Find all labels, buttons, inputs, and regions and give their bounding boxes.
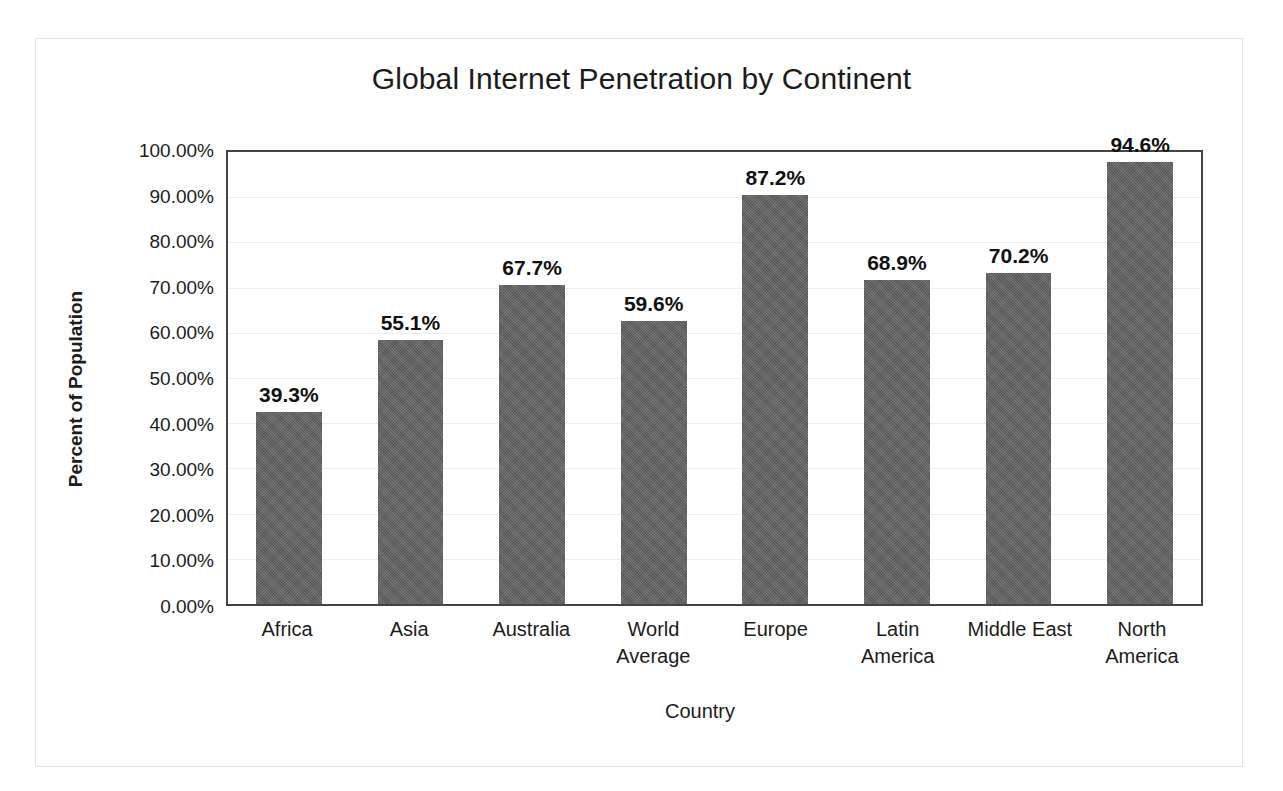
y-axis-tick-label: 30.00% bbox=[86, 460, 214, 479]
bar-slot: 68.9% bbox=[836, 152, 958, 604]
bar[interactable]: 70.2% bbox=[986, 273, 1052, 604]
y-axis-title: Percent of Population bbox=[65, 269, 87, 509]
x-axis-category-label: LatinAmerica bbox=[837, 616, 959, 670]
category-label-line: Australia bbox=[470, 616, 592, 643]
bar-slot: 67.7% bbox=[471, 152, 593, 604]
category-label-line: North bbox=[1081, 616, 1203, 643]
y-axis-tick-label: 50.00% bbox=[86, 369, 214, 388]
category-label-line: Asia bbox=[348, 616, 470, 643]
bar[interactable]: 55.1% bbox=[378, 340, 444, 604]
bar-data-label: 94.6% bbox=[1110, 133, 1170, 157]
bars-group: 39.3%55.1%67.7%59.6%87.2%68.9%70.2%94.6% bbox=[228, 152, 1201, 604]
category-label-line: America bbox=[837, 643, 959, 670]
x-axis-title: Country bbox=[560, 700, 840, 723]
y-axis-tick-labels: 0.00%10.00%20.00%30.00%40.00%50.00%60.00… bbox=[86, 150, 214, 606]
bar-slot: 55.1% bbox=[350, 152, 472, 604]
bar-chart: Global Internet Penetration by Continent… bbox=[0, 0, 1283, 791]
plot-area: 39.3%55.1%67.7%59.6%87.2%68.9%70.2%94.6% bbox=[226, 150, 1203, 606]
y-axis-tick-label: 90.00% bbox=[86, 186, 214, 205]
x-axis-category-label: Europe bbox=[715, 616, 837, 670]
bar[interactable]: 59.6% bbox=[621, 321, 687, 604]
bar-data-label: 70.2% bbox=[989, 244, 1049, 268]
bar-data-label: 39.3% bbox=[259, 383, 319, 407]
y-axis-tick-label: 70.00% bbox=[86, 277, 214, 296]
x-axis-category-label: WorldAverage bbox=[592, 616, 714, 670]
x-axis-category-label: Australia bbox=[470, 616, 592, 670]
y-axis-tick-label: 80.00% bbox=[86, 232, 214, 251]
bar-data-label: 55.1% bbox=[381, 311, 441, 335]
y-axis-tick-label: 20.00% bbox=[86, 505, 214, 524]
y-axis-tick-label: 60.00% bbox=[86, 323, 214, 342]
category-label-line: Europe bbox=[715, 616, 837, 643]
bar-data-label: 68.9% bbox=[867, 251, 927, 275]
bar[interactable]: 39.3% bbox=[256, 412, 322, 604]
bar[interactable]: 68.9% bbox=[864, 280, 930, 604]
y-axis-tick-label: 40.00% bbox=[86, 414, 214, 433]
y-axis-tick-label: 10.00% bbox=[86, 551, 214, 570]
x-axis-category-label: Asia bbox=[348, 616, 470, 670]
bar-data-label: 87.2% bbox=[746, 166, 806, 190]
bar-data-label: 67.7% bbox=[502, 256, 562, 280]
category-label-line: America bbox=[1081, 643, 1203, 670]
x-axis-category-label: Middle East bbox=[959, 616, 1081, 670]
bar-slot: 94.6% bbox=[1079, 152, 1201, 604]
category-label-line: Africa bbox=[226, 616, 348, 643]
bar-slot: 59.6% bbox=[593, 152, 715, 604]
bar[interactable]: 67.7% bbox=[499, 285, 565, 604]
chart-title: Global Internet Penetration by Continent bbox=[0, 62, 1283, 96]
x-axis-category-label: NorthAmerica bbox=[1081, 616, 1203, 670]
y-axis-tick-label: 0.00% bbox=[86, 597, 214, 616]
bar-slot: 39.3% bbox=[228, 152, 350, 604]
bar[interactable]: 87.2% bbox=[742, 195, 808, 604]
bar-slot: 70.2% bbox=[958, 152, 1080, 604]
category-label-line: World bbox=[592, 616, 714, 643]
bar-data-label: 59.6% bbox=[624, 292, 684, 316]
category-label-line: Average bbox=[592, 643, 714, 670]
bar[interactable]: 94.6% bbox=[1107, 162, 1173, 604]
x-axis-category-labels: AfricaAsiaAustraliaWorldAverageEuropeLat… bbox=[226, 616, 1203, 670]
category-label-line: Middle East bbox=[959, 616, 1081, 643]
y-axis-tick-label: 100.00% bbox=[86, 141, 214, 160]
bar-slot: 87.2% bbox=[715, 152, 837, 604]
category-label-line: Latin bbox=[837, 616, 959, 643]
x-axis-category-label: Africa bbox=[226, 616, 348, 670]
